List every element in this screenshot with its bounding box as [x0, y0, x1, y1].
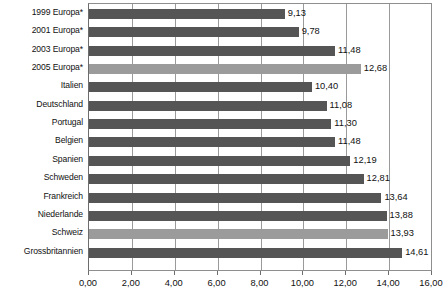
x-tick-mark — [302, 271, 303, 275]
value-axis: 0,002,004,006,008,0010,0012,0014,0016,00 — [88, 271, 432, 299]
bar — [89, 82, 312, 92]
x-tick-label: 8,00 — [250, 277, 268, 289]
bar-value-label: 12,81 — [364, 172, 390, 185]
bar — [89, 64, 361, 74]
bar-row: 12,81 — [89, 174, 432, 184]
bar — [89, 174, 364, 184]
category-label: 2003 Europa* — [0, 44, 83, 54]
category-label: Deutschland — [0, 99, 83, 109]
category-label: 1999 Europa* — [0, 7, 83, 17]
x-tick-label: 10,00 — [291, 277, 314, 289]
x-tick-mark — [260, 271, 261, 275]
x-tick-label: 0,00 — [79, 277, 97, 289]
x-tick-mark — [388, 271, 389, 275]
bar — [89, 119, 331, 129]
bar-row: 13,88 — [89, 211, 432, 221]
bar — [89, 229, 388, 239]
bar-value-label: 12,68 — [361, 62, 387, 75]
bar-value-label: 13,64 — [381, 191, 407, 204]
x-tick-mark — [345, 271, 346, 275]
bar — [89, 27, 299, 37]
bar-value-label: 9,13 — [285, 7, 306, 20]
bar-value-label: 11,08 — [327, 99, 353, 112]
bar — [89, 46, 335, 56]
x-tick-label: 6,00 — [208, 277, 226, 289]
category-label: Frankreich — [0, 191, 83, 201]
bar-value-label: 12,19 — [350, 154, 376, 167]
bar-row: 14,61 — [89, 248, 432, 258]
bar-value-label: 14,61 — [402, 246, 428, 259]
x-tick-label: 2,00 — [122, 277, 140, 289]
bar — [89, 137, 335, 147]
category-label: Portugal — [0, 117, 83, 127]
category-label: Niederlande — [0, 209, 83, 219]
bar-row: 13,93 — [89, 229, 432, 239]
bar — [89, 211, 387, 221]
x-tick-mark — [88, 271, 89, 275]
plot-area: 9,139,7811,4812,6810,4011,0811,3011,4812… — [88, 3, 432, 271]
bar-row: 10,40 — [89, 82, 432, 92]
bar-row: 9,13 — [89, 9, 432, 19]
category-label: Italien — [0, 80, 83, 90]
category-label: Belgien — [0, 135, 83, 145]
category-label: Grossbritannien — [0, 246, 83, 256]
x-tick-mark — [174, 271, 175, 275]
bar-value-label: 11,48 — [335, 135, 361, 148]
bar-value-label: 13,93 — [388, 227, 414, 240]
bar-value-label: 11,48 — [335, 44, 361, 57]
bar-chart: 1999 Europa*2001 Europa*2003 Europa*2005… — [0, 0, 445, 302]
bar — [89, 248, 402, 258]
x-tick-label: 16,00 — [419, 277, 442, 289]
category-axis: 1999 Europa*2001 Europa*2003 Europa*2005… — [0, 0, 86, 272]
category-label: Schweiz — [0, 227, 83, 237]
bar-value-label: 9,78 — [299, 25, 320, 38]
bar-row: 11,48 — [89, 137, 432, 147]
x-tick-mark — [217, 271, 218, 275]
bar — [89, 156, 350, 166]
bar-row: 11,48 — [89, 46, 432, 56]
category-label: 2005 Europa* — [0, 62, 83, 72]
bar-row: 12,68 — [89, 64, 432, 74]
category-label: Spanien — [0, 154, 83, 164]
x-tick-label: 4,00 — [165, 277, 183, 289]
bar-value-label: 10,40 — [312, 80, 338, 93]
bar-value-label: 11,30 — [331, 117, 357, 130]
bar — [89, 9, 285, 19]
x-tick-mark — [131, 271, 132, 275]
x-tick-label: 12,00 — [334, 277, 357, 289]
bar-row: 12,19 — [89, 156, 432, 166]
category-label: 2001 Europa* — [0, 25, 83, 35]
bar-row: 11,30 — [89, 119, 432, 129]
bar-row: 9,78 — [89, 27, 432, 37]
bar-row: 13,64 — [89, 193, 432, 203]
bar — [89, 101, 327, 111]
bar-row: 11,08 — [89, 101, 432, 111]
x-tick-label: 14,00 — [376, 277, 399, 289]
x-tick-mark — [431, 271, 432, 275]
category-label: Schweden — [0, 172, 83, 182]
bar — [89, 193, 381, 203]
bar-value-label: 13,88 — [387, 209, 413, 222]
